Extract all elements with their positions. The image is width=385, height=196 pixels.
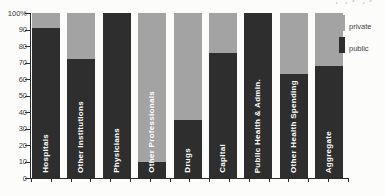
bar-label: Aggregate: [325, 131, 333, 173]
bar-label: Public Health & Admin.: [254, 79, 262, 173]
bar-segment-private: [174, 13, 202, 120]
bar-public-health-admin: Public Health & Admin.: [244, 13, 272, 178]
y-axis-label: 90: [0, 26, 27, 34]
y-axis-label: 80: [0, 43, 27, 51]
y-axis-label: 20: [0, 142, 27, 150]
bar-other-institutions: Other Institutions: [67, 13, 95, 178]
y-axis-label: 40: [0, 109, 27, 117]
x-tick: [209, 179, 210, 182]
x-tick: [348, 179, 349, 182]
plot-area: HospitalsOther InstitutionsPhysiciansOth…: [30, 13, 360, 178]
bar-segment-private: [32, 13, 60, 28]
x-tick: [308, 179, 309, 182]
y-axis-label: 0: [0, 175, 27, 183]
legend-label-private: private: [349, 23, 372, 31]
chart-container: ˏ ˏ ⁄ ˏ ⁄ 100%9080706050403020100 Hospit…: [0, 0, 385, 196]
x-tick: [189, 179, 190, 182]
bar-drugs: Drugs: [174, 13, 202, 178]
bar-label: Other Institutions: [77, 101, 85, 173]
bar-segment-private: [280, 13, 308, 74]
legend-swatch-private: [339, 15, 345, 31]
x-tick: [130, 179, 131, 182]
legend: private public: [339, 15, 372, 59]
x-tick: [229, 179, 230, 182]
bar-label: Capital: [219, 144, 227, 173]
legend-swatch-public: [339, 37, 345, 53]
legend-item-private: private: [339, 15, 372, 31]
bar-label: Drugs: [184, 148, 192, 173]
bar-label: Other Health Spending: [290, 80, 298, 173]
cropped-top-text: ˏ ˏ ⁄ ˏ ⁄: [335, 0, 375, 4]
legend-label-public: public: [349, 45, 369, 53]
legend-item-public: public: [339, 37, 372, 53]
x-tick: [269, 179, 270, 182]
bar-segment-private: [67, 13, 95, 59]
y-axis-label: 50: [0, 92, 27, 100]
x-tick: [110, 179, 111, 182]
x-tick: [328, 179, 329, 182]
x-tick: [288, 179, 289, 182]
x-tick: [51, 179, 52, 182]
x-tick: [150, 179, 151, 182]
x-tick: [170, 179, 171, 182]
bar-hospitals: Hospitals: [32, 13, 60, 178]
bar-segment-private: [209, 13, 237, 53]
bar-label: Hospitals: [42, 134, 50, 173]
bar-other-professionals: Other Professionals: [138, 13, 166, 178]
bar-label: Other Professionals: [148, 91, 156, 173]
x-tick: [249, 179, 250, 182]
bar-other-health-spending: Other Health Spending: [280, 13, 308, 178]
y-axis-label: 70: [0, 59, 27, 67]
bar-physicians: Physicians: [103, 13, 131, 178]
bar-label: Physicians: [113, 128, 121, 173]
y-axis-label: 30: [0, 125, 27, 133]
x-tick: [31, 179, 32, 182]
y-axis-label: 60: [0, 76, 27, 84]
bar-capital: Capital: [209, 13, 237, 178]
x-tick: [90, 179, 91, 182]
x-tick: [71, 179, 72, 182]
y-axis-label: 100%: [0, 10, 27, 18]
y-axis-label: 10: [0, 158, 27, 166]
